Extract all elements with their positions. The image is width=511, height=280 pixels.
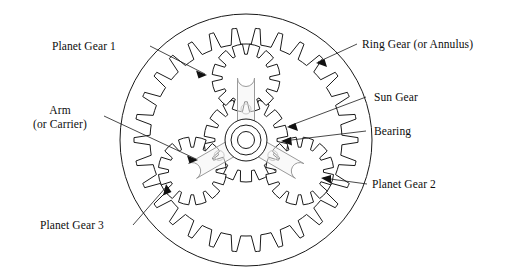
label-sun-gear: Sun Gear	[374, 91, 418, 104]
label-arm-line1: Arm	[49, 104, 70, 116]
label-bearing: Bearing	[374, 125, 411, 138]
label-planet-gear-3: Planet Gear 3	[40, 219, 104, 232]
diagram-canvas: Planet Gear 1 Arm (or Carrier) Planet Ge…	[0, 0, 511, 280]
label-planet-gear-1: Planet Gear 1	[52, 40, 116, 53]
bearing-bore	[238, 132, 255, 149]
label-arm-line2: (or Carrier)	[33, 118, 87, 130]
label-arm-carrier: Arm (or Carrier)	[16, 103, 104, 131]
label-planet-gear-2: Planet Gear 2	[372, 178, 436, 191]
label-ring-gear: Ring Gear (or Annulus)	[362, 38, 473, 51]
